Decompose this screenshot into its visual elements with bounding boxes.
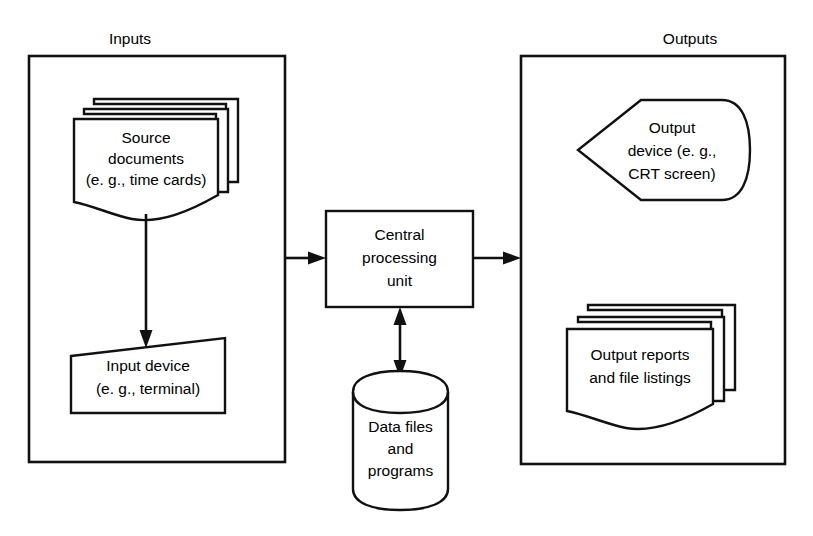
source-documents-line-2: documents bbox=[108, 150, 184, 167]
flowchart-diagram: Inputs Source documents (e. g., time car… bbox=[0, 0, 813, 536]
output-device-line-3: CRT screen) bbox=[628, 165, 715, 182]
cpu-to-outputs-arrowhead bbox=[503, 252, 521, 265]
node-source-documents[interactable]: Source documents (e. g., time cards) bbox=[74, 99, 238, 220]
input-device-line-2: (e. g., terminal) bbox=[96, 380, 200, 397]
cpu-line-1: Central bbox=[375, 226, 425, 243]
node-output-device[interactable]: Output device (e. g., CRT screen) bbox=[578, 100, 750, 200]
input-device-line-1: Input device bbox=[106, 357, 190, 374]
output-reports-line-2: and file listings bbox=[589, 369, 691, 386]
connector-source-to-input-device bbox=[140, 214, 153, 348]
output-device-line-2: device (e. g., bbox=[628, 142, 717, 159]
data-files-line-3: programs bbox=[368, 462, 434, 479]
node-input-device[interactable]: Input device (e. g., terminal) bbox=[71, 338, 225, 413]
cpu-line-3: unit bbox=[387, 272, 413, 289]
input-device-shape bbox=[71, 338, 225, 413]
source-to-input-device-arrowhead bbox=[140, 330, 153, 348]
inputs-group-label: Inputs bbox=[109, 30, 151, 47]
data-files-line-2: and bbox=[388, 440, 414, 457]
connector-inputs-to-cpu bbox=[286, 252, 326, 265]
cpu-to-data-files-arrowhead-up bbox=[394, 307, 407, 325]
connector-cpu-to-data-files bbox=[394, 307, 407, 378]
outputs-group-label: Outputs bbox=[663, 30, 718, 47]
output-device-line-1: Output bbox=[649, 119, 696, 136]
source-documents-line-3: (e. g., time cards) bbox=[86, 171, 207, 188]
connector-cpu-to-outputs bbox=[473, 252, 521, 265]
source-documents-line-1: Source bbox=[121, 129, 170, 146]
flowchart-canvas: Inputs Source documents (e. g., time car… bbox=[0, 0, 813, 536]
data-files-line-1: Data files bbox=[368, 418, 433, 435]
node-central-processing-unit[interactable]: Central processing unit bbox=[326, 211, 473, 307]
inputs-to-cpu-arrowhead bbox=[308, 252, 326, 265]
node-output-reports[interactable]: Output reports and file listings bbox=[567, 305, 735, 429]
output-reports-line-1: Output reports bbox=[590, 346, 689, 363]
cpu-line-2: processing bbox=[362, 249, 437, 266]
node-data-files[interactable]: Data files and programs bbox=[353, 371, 448, 510]
